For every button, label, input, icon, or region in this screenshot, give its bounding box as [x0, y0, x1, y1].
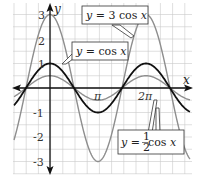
- svg-text:y =: y =: [120, 136, 140, 149]
- x-tick-pi: π: [93, 90, 102, 103]
- x-axis-label: x: [183, 73, 190, 87]
- y-tick-1: 1: [38, 58, 45, 71]
- svg-text:cos x: cos x: [148, 136, 177, 149]
- y-tick-2: 2: [38, 35, 45, 48]
- svg-text:y = 3 cos x: y = 3 cos x: [85, 9, 148, 22]
- x-tick-2pi: 2π: [137, 90, 153, 103]
- y-tick-neg2: -2: [33, 131, 44, 144]
- cosine-graph: y x 3 2 1 -1 -2 -3 π 2π y = 3 cos x y = …: [0, 0, 206, 194]
- label-half-cos-x: y = 1 2 cos x: [118, 130, 184, 154]
- y-tick-neg1: -1: [33, 107, 44, 120]
- leader-half-cos-x-2: [156, 108, 160, 133]
- label-cos-x: y = cos x: [72, 42, 128, 60]
- label-3-cos-x: y = 3 cos x: [82, 6, 148, 24]
- svg-text:y = cos x: y = cos x: [75, 45, 127, 58]
- y-tick-3: 3: [38, 9, 45, 22]
- y-tick-neg3: -3: [33, 156, 44, 169]
- y-axis-label: y: [53, 2, 61, 16]
